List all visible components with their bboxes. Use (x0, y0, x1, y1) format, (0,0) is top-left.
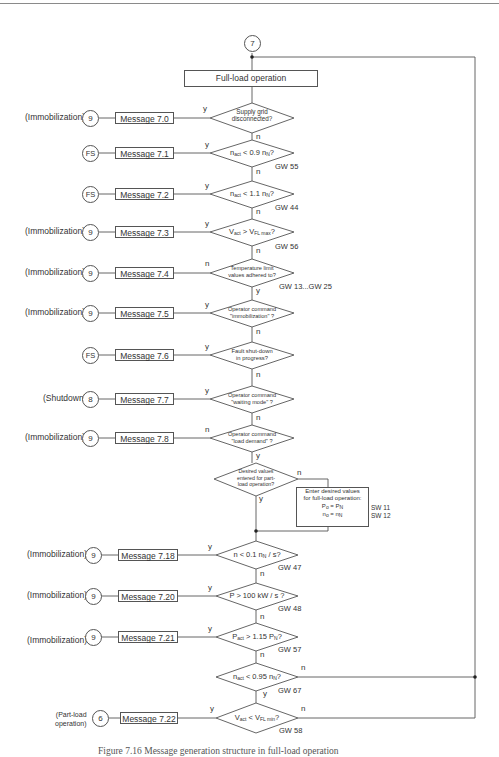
enter-box-line: for full-load operation: (303, 495, 361, 501)
connector-fs: FS (82, 186, 99, 203)
connector-label: FS (86, 149, 96, 158)
connector-fs: FS (82, 145, 99, 162)
decision-v-act-lt-v-fl-min: Vact < VFL min? (235, 714, 280, 723)
branch-y: y (208, 542, 212, 551)
target-label-part-load: (Part-loadoperation) (55, 710, 87, 728)
connector-label: 9 (91, 592, 95, 601)
gw-ref: GW 44 (275, 203, 298, 212)
decision-n-lt-0-1-nn-per-s: n < 0.1 nN / s? (233, 551, 280, 560)
branch-n: n (256, 207, 260, 216)
target-label: (Immobilization) (27, 590, 87, 600)
message-7-2-box: Message 7.2 (115, 188, 174, 200)
message-7-20-box: Message 7.20 (118, 590, 178, 602)
branch-y: y (256, 286, 260, 295)
branch-n: n (260, 569, 264, 578)
target-label-line: (Part-load (56, 711, 87, 718)
decision-n-act-lt-1-1: nact < 1.1 nN? (230, 190, 274, 199)
connector-label: 9 (91, 551, 95, 560)
gw-ref: GW 58 (279, 726, 302, 735)
branch-n: n (205, 425, 209, 434)
branch-n: n (256, 246, 260, 255)
branch-y: y (205, 300, 209, 309)
message-7-18-box: Message 7.18 (118, 549, 178, 561)
connector-fs: FS (82, 347, 99, 364)
message-7-0-box: Message 7.0 (115, 112, 174, 124)
target-label: (Shutdown) (43, 393, 86, 403)
target-label: (Immobilization) (27, 549, 87, 559)
decision-text: Operator command (228, 431, 276, 437)
branch-n: n (301, 704, 305, 713)
message-7-6-box: Message 7.6 (115, 349, 174, 361)
branch-n: n (301, 663, 305, 672)
branch-n: n (205, 259, 209, 268)
decision-n-act-lt-0-9: nact < 0.9 nN? (230, 149, 274, 158)
gw-ref: GW 48 (278, 604, 301, 613)
branch-y: y (259, 494, 263, 503)
start-box-label: Full-load operation (216, 73, 286, 83)
message-7-7-box: Message 7.7 (115, 393, 174, 405)
branch-n: n (256, 327, 260, 336)
branch-y: y (205, 181, 209, 190)
branch-y: y (205, 342, 209, 351)
connector-label: 9 (88, 114, 92, 123)
connector-label: 9 (88, 434, 92, 443)
enter-box-line: Enter desired values (305, 488, 360, 494)
decision-v-act-gt-v-fl-max: Vact > VFL max? (229, 228, 275, 237)
branch-n: n (297, 468, 301, 477)
sw-ref: SW 12 (371, 512, 391, 519)
branch-y: y (205, 386, 209, 395)
decision-text: Fault shut-down (231, 348, 272, 354)
figure-caption: Figure 7.16 Message generation structure… (98, 746, 339, 756)
gw-ref: GW 57 (278, 645, 301, 654)
decision-text: Supply grid (236, 108, 268, 115)
connector-label: 8 (88, 395, 92, 404)
branch-n: n (256, 413, 260, 422)
branch-n: n (260, 650, 264, 659)
branch-n: n (256, 132, 260, 141)
connector-9: 9 (85, 629, 102, 646)
message-7-8-box: Message 7.8 (115, 432, 174, 444)
decision-text: values adhered to? (228, 272, 276, 278)
decision-desired-values-part-load: Desired valuesentered for part-load oper… (237, 468, 275, 488)
connector-label: 9 (88, 269, 92, 278)
target-label: (Immobilization) (25, 226, 85, 236)
decision-operator-load-demand: Operator command"load demand" ? (228, 431, 276, 445)
target-label: (Immobilization) (25, 432, 85, 442)
decision-temperature-limits: Temperature limitvalues adhered to? (228, 265, 276, 279)
target-label: (Immobilization) (25, 112, 85, 122)
gw-ref: GW 55 (275, 162, 298, 171)
connector-9: 9 (82, 110, 99, 127)
connector-label: 9 (88, 309, 92, 318)
connector-9: 9 (82, 430, 99, 447)
connector-9: 9 (82, 305, 99, 322)
sw-ref: SW 11 (371, 504, 390, 511)
connector-9: 9 (82, 265, 99, 282)
branch-y: y (205, 140, 209, 149)
branch-y: y (203, 104, 207, 113)
message-7-21-box: Message 7.21 (118, 631, 178, 643)
message-7-4-box: Message 7.4 (115, 267, 174, 279)
connector-9: 9 (85, 588, 102, 605)
connector-label: FS (86, 351, 96, 360)
decision-text: Temperature limit (231, 265, 274, 271)
branch-y: y (256, 451, 260, 460)
target-label-line: operation) (55, 720, 87, 727)
target-label: (Immobilization) (27, 635, 87, 645)
target-label: (Immobilization) (25, 307, 85, 317)
connector-9: 9 (85, 547, 102, 564)
connector-label: 6 (98, 714, 102, 723)
branch-y: y (263, 689, 267, 698)
enter-box-n-eq: no = nN (323, 511, 343, 517)
decision-text: "immobilization" ? (230, 313, 274, 319)
decision-text: Desired values (238, 468, 273, 474)
decision-supply-grid: Supply griddisconnected? (232, 108, 273, 122)
message-7-3-box: Message 7.3 (115, 226, 174, 238)
connector-label: 7 (250, 39, 254, 48)
decision-text: Operator command (228, 392, 276, 398)
gw-ref: GW 56 (275, 242, 298, 251)
decision-text: entered for part- (237, 475, 275, 481)
branch-y: y (208, 624, 212, 633)
gw-ref: GW 67 (278, 686, 301, 695)
branch-n: n (260, 612, 264, 621)
decision-text: "waiting mode" ? (231, 399, 273, 405)
